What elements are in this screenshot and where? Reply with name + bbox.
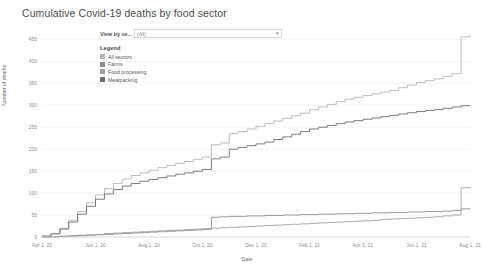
- x-tick-label: Aug 1, 20: [138, 242, 160, 248]
- y-tick-label: 250: [29, 124, 38, 130]
- x-tick-label: Jun 1, 20: [85, 242, 106, 248]
- x-tick-label: Apr 1, 20: [32, 242, 53, 248]
- y-tick-label: 400: [29, 58, 38, 64]
- data-series: [42, 35, 470, 237]
- gridlines: [42, 39, 470, 237]
- y-tick-label: 0: [34, 234, 37, 240]
- dashboard-container: Cumulative Covid-19 deaths by food secto…: [0, 0, 494, 280]
- y-tick-label: 150: [29, 168, 38, 174]
- y-tick-label: 450: [29, 36, 38, 42]
- y-tick-label: 300: [29, 102, 38, 108]
- line-chart-plot: 050100150200250300350400450 Apr 1, 20Jun…: [0, 0, 494, 280]
- x-tick-label: Oct 1, 20: [192, 242, 213, 248]
- x-tick-label: Dec 1, 20: [245, 242, 267, 248]
- y-tick-label: 50: [31, 212, 37, 218]
- y-tick-label: 200: [29, 146, 38, 152]
- series-line[interactable]: [42, 105, 470, 236]
- x-tick-label: Jun 1, 21: [406, 242, 427, 248]
- x-tick-label: Apr 1, 21: [353, 242, 374, 248]
- y-tick-label: 100: [29, 190, 38, 196]
- x-axis-ticks: Apr 1, 20Jun 1, 20Aug 1, 20Oct 1, 20Dec …: [32, 242, 481, 248]
- x-tick-label: Aug 1, 21: [459, 242, 481, 248]
- series-line[interactable]: [42, 35, 470, 236]
- y-tick-label: 350: [29, 80, 38, 86]
- series-line[interactable]: [42, 208, 470, 237]
- x-tick-label: Feb 1, 21: [299, 242, 320, 248]
- y-axis-ticks: 050100150200250300350400450: [29, 36, 38, 240]
